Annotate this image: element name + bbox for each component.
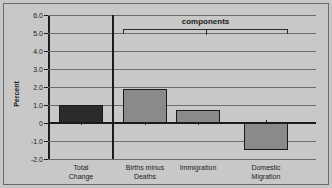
y-axis-tick-label: -1.0 [31, 138, 43, 145]
y-axis-tick [44, 159, 48, 160]
x-axis-label-line: Deaths [134, 173, 156, 180]
x-axis-tick [198, 122, 199, 125]
x-axis-label-line: Births minus [126, 164, 165, 171]
x-axis-label-line: Domestic [251, 164, 280, 171]
y-axis-tick-label: 4.0 [33, 48, 43, 55]
y-axis-title: Percent [13, 81, 20, 107]
y-axis-tick-label: 3.0 [33, 66, 43, 73]
gridline [48, 159, 316, 160]
chart-screenshot: Percent 6.05.04.03.02.01.00-1.0-2.0 Tota… [0, 0, 332, 188]
x-axis-tick [81, 122, 82, 125]
gridline [48, 51, 316, 52]
bar-births-minus-deaths [123, 89, 167, 123]
components-bracket-label: components [123, 17, 288, 26]
y-axis-tick [44, 33, 48, 34]
y-axis-tick [44, 105, 48, 106]
bar-total-change [59, 105, 103, 123]
y-axis-tick-label: 5.0 [33, 30, 43, 37]
chart-frame: Percent 6.05.04.03.02.01.00-1.0-2.0 Tota… [3, 3, 329, 185]
bar-domestic-migration [244, 123, 288, 150]
x-axis-label-line: Total [74, 164, 89, 171]
y-axis-tick-label: -2.0 [31, 156, 43, 163]
x-axis-label: DomesticMigration [228, 163, 304, 182]
x-axis-label-line: Change [69, 173, 94, 180]
components-bracket [123, 29, 288, 34]
x-axis-tick [145, 122, 146, 125]
section-divider-line [112, 15, 114, 159]
y-axis-tick [44, 51, 48, 52]
y-axis-tick [44, 87, 48, 88]
gridline [48, 69, 316, 70]
x-axis-label: Immigration [160, 163, 236, 172]
y-axis-tick-label: 6.0 [33, 12, 43, 19]
x-axis-label-line: Immigration [180, 164, 217, 171]
y-axis-tick-label: 2.0 [33, 84, 43, 91]
gridline [48, 15, 316, 16]
gridline [48, 87, 316, 88]
y-axis-tick-label: 0 [39, 120, 43, 127]
x-axis-label-line: Migration [252, 173, 281, 180]
y-axis-tick [44, 141, 48, 142]
plot-area: 6.05.04.03.02.01.00-1.0-2.0 TotalChangeB… [48, 15, 316, 159]
y-axis-tick [44, 15, 48, 16]
x-axis-tick [266, 120, 267, 123]
y-axis-tick-label: 1.0 [33, 102, 43, 109]
y-axis-tick [44, 123, 48, 124]
y-axis-tick [44, 69, 48, 70]
bracket-middle-tick [206, 30, 207, 35]
